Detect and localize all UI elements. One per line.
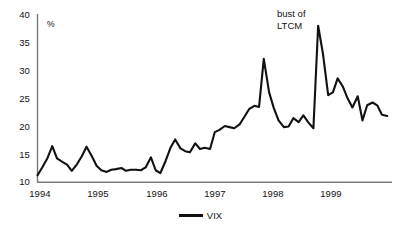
x-tick-label-1996: 1996 (137, 188, 177, 199)
x-tick-label-1999: 1999 (311, 188, 351, 199)
x-tick-label-1998: 1998 (253, 188, 293, 199)
y-tick-label-10: 10 (8, 176, 30, 187)
y-tick-label-20: 20 (8, 121, 30, 132)
annotation-ltcm-line1: bust of (277, 8, 306, 20)
y-tick-label-30: 30 (8, 65, 30, 76)
legend-label-vix: VIX (207, 210, 222, 221)
y-tick-label-15: 15 (8, 149, 30, 160)
data-series-vix (38, 26, 388, 176)
y-tick-label-35: 35 (8, 37, 30, 48)
y-tick-label-40: 40 (8, 9, 30, 20)
y-axis-unit-label: % (47, 19, 55, 29)
annotation-ltcm-line2: LTCM (277, 20, 306, 32)
chart-legend: VIX (0, 210, 401, 221)
x-tick-label-1995: 1995 (78, 188, 118, 199)
annotation-ltcm: bust of LTCM (277, 8, 306, 32)
legend-swatch-vix (179, 214, 203, 217)
x-tick-label-1997: 1997 (195, 188, 235, 199)
chart-figure: 40 35 30 25 20 15 10 1994 1995 1996 1997… (0, 0, 401, 237)
vix-line-chart (0, 0, 401, 237)
x-tick-label-1994: 1994 (20, 188, 60, 199)
y-tick-label-25: 25 (8, 93, 30, 104)
